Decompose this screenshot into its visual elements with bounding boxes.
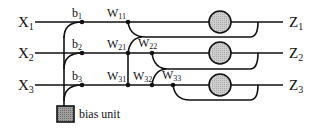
input-label-x3: X3: [18, 77, 34, 95]
bias-branch-3: [64, 85, 82, 101]
weight-label-w21: W21: [107, 37, 126, 52]
bias-label-b3: b3: [72, 69, 82, 84]
neuron-node-2: [209, 42, 231, 64]
output-label-z1: Z1: [289, 14, 303, 32]
junction-w22: [150, 51, 155, 56]
bus-1: [128, 22, 258, 37]
bias-branch-2: [64, 53, 82, 69]
input-label-x1: X1: [18, 14, 34, 32]
junction-w21: [126, 51, 131, 56]
weight-label-w11: W11: [107, 6, 126, 21]
junction-w31: [126, 83, 131, 88]
output-label-z3: Z3: [289, 77, 303, 95]
neural-network-diagram: X1 X2 X3 Z1 Z2 Z3 b1 b2 b3 W11 W21 W22 W…: [0, 0, 318, 135]
bias-branch-1: [64, 22, 82, 38]
weight-label-w33: W33: [162, 68, 181, 83]
bias-unit-label: bias unit: [79, 107, 121, 121]
bias-label-b1: b1: [72, 6, 82, 21]
bias-unit-box: [57, 106, 74, 122]
output-label-z2: Z2: [289, 45, 303, 63]
junction-w11: [126, 20, 131, 25]
bus-2: [152, 53, 258, 69]
weight-label-w22: W22: [138, 36, 157, 51]
bias-label-b2: b2: [72, 37, 82, 52]
weight-label-w32: W32: [133, 69, 152, 84]
neuron-node-3: [209, 74, 231, 96]
junction-w33: [171, 83, 176, 88]
neuron-node-1: [209, 11, 231, 33]
input-label-x2: X2: [18, 45, 34, 63]
weight-label-w31: W31: [107, 69, 126, 84]
